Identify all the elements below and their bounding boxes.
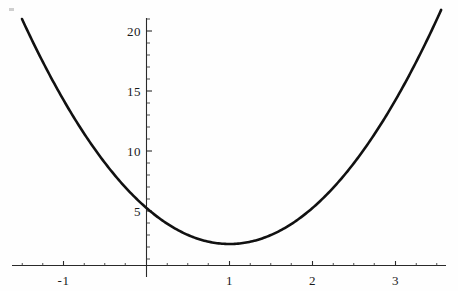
y-tick-label-5: 5	[134, 204, 141, 219]
scan-speck	[9, 8, 14, 11]
x-tick-label-neg1: -1	[58, 273, 70, 288]
plot-canvas: -1 1 2 3 5 10 15 20	[0, 0, 458, 291]
y-tick-label-10: 10	[127, 144, 141, 159]
x-tick-label-2: 2	[309, 273, 316, 288]
y-tick-label-15: 15	[127, 84, 141, 99]
parabola-curve	[22, 10, 441, 244]
y-axis-minor-ticks	[147, 19, 151, 259]
y-tick-label-20: 20	[127, 24, 141, 39]
x-tick-label-3: 3	[392, 273, 399, 288]
plot-figure: -1 1 2 3 5 10 15 20	[0, 0, 458, 291]
x-tick-label-1: 1	[226, 273, 233, 288]
x-axis-major-ticks	[64, 261, 396, 266]
y-axis-major-ticks	[147, 31, 153, 211]
